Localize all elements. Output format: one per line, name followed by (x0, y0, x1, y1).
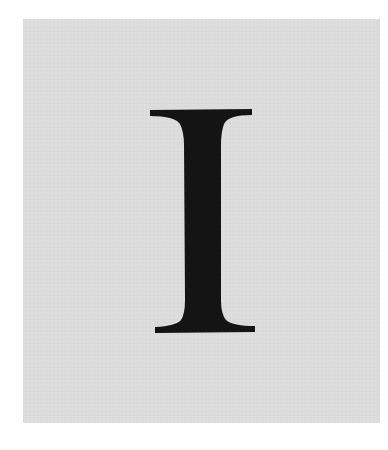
letter-i-shape (150, 109, 255, 333)
letter-i-glyph (0, 0, 388, 450)
